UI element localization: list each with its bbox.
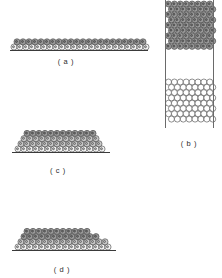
- panel-d-label: ( d ): [48, 265, 76, 274]
- panel-d-atoms: [0, 0, 222, 278]
- panel-d-substrate-line: [12, 250, 116, 251]
- figure-canvas: ( a ) ( b ) ( c ) ( d ): [0, 0, 222, 278]
